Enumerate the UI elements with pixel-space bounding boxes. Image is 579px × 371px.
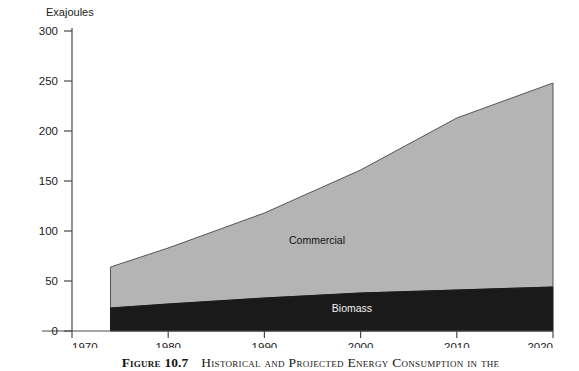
y-tick-label: 150 [39,175,58,187]
figure-container: 050100150200250300 197019801990200020102… [0,0,579,371]
figure-caption: Figure 10.7 Historical and Projected Ene… [0,353,579,371]
y-tick-label: 50 [45,275,58,287]
x-tick-label: 1970 [72,341,98,348]
y-tick-label: 0 [52,325,58,337]
plot-area [110,83,553,331]
x-tick-label: 1990 [252,341,278,348]
series-label-commercial: Commercial [289,234,345,246]
y-axis-tick-labels: 050100150200250300 [39,25,58,337]
x-tick-label: 2020 [527,341,553,348]
x-tick-label: 2010 [444,341,470,348]
y-tick-label: 300 [39,25,58,37]
x-tick-label: 2000 [348,341,374,348]
area-series-commercial [110,83,553,308]
caption-figure-word: Figure [122,355,161,370]
x-axis-tick-labels: 197019801990200020102020 [72,341,553,348]
x-tick-label: 1980 [155,341,181,348]
caption-figure-number: 10.7 [165,355,189,370]
caption-title-text: Historical and Projected Energy Consumpt… [201,355,499,370]
y-axis-title: Exajoules [46,6,94,18]
x-axis-ticks [72,331,553,338]
y-tick-label: 100 [39,225,58,237]
series-label-biomass: Biomass [332,302,372,314]
y-tick-label: 250 [39,75,58,87]
area-chart: 050100150200250300 197019801990200020102… [0,0,579,348]
y-tick-label: 200 [39,125,58,137]
y-axis-ticks [64,31,72,331]
